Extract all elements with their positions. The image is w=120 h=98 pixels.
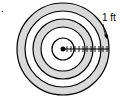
target-diagram: 1 ft . — [0, 0, 120, 98]
corner-mark: . — [1, 3, 4, 14]
measure-label: 1 ft — [102, 12, 116, 23]
center-dot — [61, 47, 66, 52]
